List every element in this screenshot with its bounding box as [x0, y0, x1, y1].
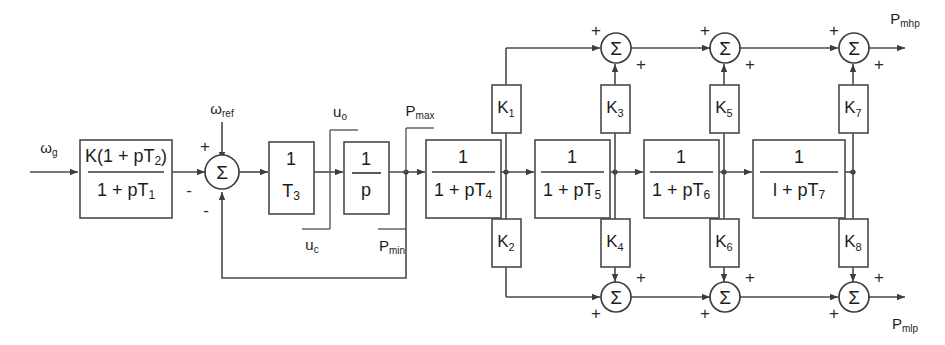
- label-p-max: Pmax: [406, 102, 435, 121]
- sign-plus-top-3-gain: +: [874, 55, 884, 74]
- block-integrator[interactable]: 1 p: [344, 142, 389, 214]
- label-p-min: Pmin: [379, 237, 405, 256]
- block-lag-2[interactable]: 1 1 + pT5: [535, 140, 610, 218]
- lag-3-numerator: 1: [676, 147, 686, 167]
- lag-1-denominator: 1 + pT4: [434, 180, 493, 202]
- wire-lag4-to-lag5: [500, 169, 534, 174]
- label-u-o: uo: [333, 103, 347, 122]
- gain-block-k3[interactable]: K3: [601, 85, 630, 133]
- lag-2-numerator: 1: [567, 147, 577, 167]
- sign-plus-bottom-3-in: +: [829, 304, 839, 323]
- lag-2-denominator: 1 + pT5: [543, 180, 602, 202]
- sigma-symbol-bottom-1: Σ: [610, 287, 622, 308]
- block-lag-3[interactable]: 1 1 + pT6: [644, 140, 719, 218]
- gain-block-k6[interactable]: K6: [710, 219, 739, 267]
- servo-numerator: 1: [286, 149, 296, 169]
- block-lag-1[interactable]: 1 1 + pT4: [426, 140, 501, 218]
- label-output-pmhp: Pmhp: [890, 10, 920, 29]
- sign-plus-bottom-1-gain: +: [636, 268, 646, 287]
- summing-junction-bottom-1[interactable]: Σ + +: [591, 268, 646, 323]
- wire-lag7-tap: [845, 169, 856, 174]
- lag-4-numerator: 1: [794, 147, 804, 167]
- lag-1-numerator: 1: [458, 147, 468, 167]
- sign-plus-bottom-1-in: +: [591, 304, 601, 323]
- sign-plus-bottom-2-gain: +: [745, 268, 755, 287]
- summing-junction-main[interactable]: Σ + - -: [186, 137, 239, 220]
- wire-lag6-to-lag7: [718, 169, 752, 174]
- block-diagram-canvas: K(1 + pT2) 1 + pT1 1 T3 1 p 1 1 + pT4 1 …: [0, 0, 945, 345]
- gain-block-k2[interactable]: K2: [492, 219, 521, 267]
- label-omega-ref: ωref: [210, 100, 234, 119]
- sigma-symbol-top-1: Σ: [610, 38, 622, 59]
- gain-block-k8[interactable]: K8: [839, 219, 868, 267]
- summing-junction-bottom-2[interactable]: Σ + +: [700, 268, 755, 323]
- integrator-numerator: 1: [361, 149, 371, 169]
- sign-plus-bottom-2-in: +: [700, 304, 710, 323]
- sign-plus-top-2-gain: +: [745, 55, 755, 74]
- sign-plus-bottom-3-gain: +: [874, 268, 884, 287]
- sigma-symbol-main: Σ: [216, 162, 228, 183]
- block-lag-4[interactable]: 1 l + pT7: [753, 140, 845, 218]
- block-servo-gain[interactable]: 1 T3: [269, 142, 314, 214]
- sign-minus-feedback: -: [203, 201, 209, 220]
- sigma-symbol-bottom-2: Σ: [719, 287, 731, 308]
- block-lead-lag[interactable]: K(1 + pT2) 1 + pT1: [80, 140, 172, 218]
- integrator-denominator: p: [361, 180, 371, 200]
- sigma-symbol-top-2: Σ: [719, 38, 731, 59]
- diagram-svg: K(1 + pT2) 1 + pT1 1 T3 1 p 1 1 + pT4 1 …: [0, 0, 945, 345]
- sign-plus-top-1-gain: +: [636, 55, 646, 74]
- gain-block-k5[interactable]: K5: [710, 85, 739, 133]
- sign-minus-input: -: [186, 181, 192, 200]
- gain-block-k7[interactable]: K7: [839, 85, 868, 133]
- lag-4-denominator: l + pT7: [773, 180, 826, 202]
- sign-plus-top-1-in: +: [591, 21, 601, 40]
- sign-plus-top-2-in: +: [700, 21, 710, 40]
- wire-lag5-to-lag6: [609, 169, 643, 174]
- gain-block-k4[interactable]: K4: [601, 219, 630, 267]
- summing-junction-bottom-3[interactable]: Σ + +: [829, 268, 884, 323]
- label-omega-g: ωg: [40, 139, 57, 158]
- gain-block-k1[interactable]: K1: [492, 85, 521, 133]
- label-output-pmlp: Pmlp: [892, 315, 919, 334]
- sign-plus-top-3-in: +: [829, 21, 839, 40]
- label-u-c: uc: [305, 236, 318, 255]
- lag-3-denominator: 1 + pT6: [652, 180, 711, 202]
- sign-plus-main: +: [200, 137, 210, 156]
- sigma-symbol-top-3: Σ: [848, 38, 860, 59]
- sigma-symbol-bottom-3: Σ: [848, 287, 860, 308]
- lead-lag-denominator: 1 + pT1: [97, 180, 156, 202]
